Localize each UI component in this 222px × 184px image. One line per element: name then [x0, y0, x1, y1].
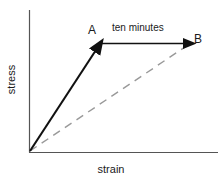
stress-strain-figure: A B ten minutes strain stress — [0, 0, 222, 184]
plot-canvas — [0, 0, 222, 184]
secant-dashed-line — [30, 45, 188, 151]
loading-ramp-arrow — [30, 50, 96, 151]
x-axis-label: strain — [0, 164, 222, 175]
ten-minutes-label: ten minutes — [112, 23, 164, 33]
point-b-label: B — [194, 33, 202, 45]
point-a-label: A — [88, 24, 96, 36]
y-axis-label: stress — [6, 52, 17, 108]
